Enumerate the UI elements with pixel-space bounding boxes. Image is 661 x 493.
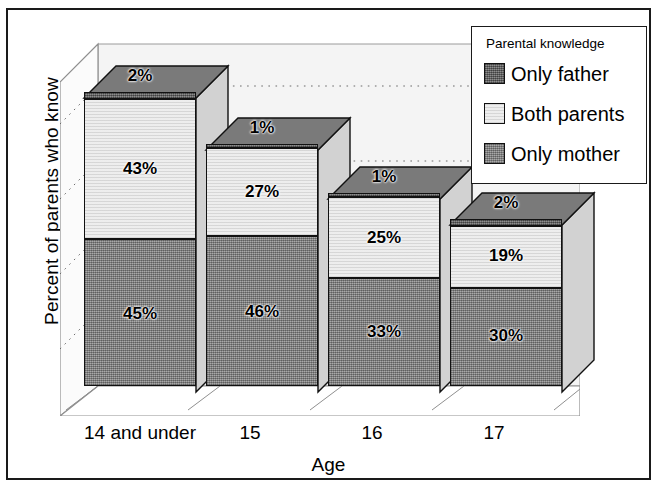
x-tick-label-1: 15 — [194, 422, 306, 444]
legend-label-only-mother: Only mother — [511, 144, 620, 164]
legend-item-both-parents[interactable]: Both parents — [484, 103, 624, 124]
x-tick-label-3: 17 — [438, 422, 550, 444]
bar-column-14-and-under[interactable]: 45% 43% 2% — [84, 92, 196, 386]
x-tick-label-2: 16 — [316, 422, 428, 444]
bar-column-16[interactable]: 33% 25% 1% — [328, 193, 440, 386]
segment-label-only-father: 2% — [84, 66, 196, 86]
segment-label-only-mother: 30% — [450, 326, 562, 346]
legend-label-only-father: Only father — [511, 64, 609, 84]
segment-only-father[interactable] — [328, 193, 440, 197]
segment-only-father[interactable] — [450, 219, 562, 226]
segment-label-both-parents: 27% — [206, 182, 318, 202]
segment-label-only-mother: 33% — [328, 322, 440, 342]
legend-item-only-father[interactable]: Only father — [484, 63, 609, 84]
bar-column-17[interactable]: 30% 19% 2% — [450, 219, 562, 386]
bar-column-15[interactable]: 46% 27% 1% — [206, 144, 318, 386]
legend-swatch-only-father — [484, 63, 505, 84]
segment-only-father[interactable] — [84, 92, 196, 99]
legend-item-only-mother[interactable]: Only mother — [484, 143, 620, 164]
segment-label-both-parents: 19% — [450, 246, 562, 266]
legend-label-both-parents: Both parents — [511, 104, 624, 124]
segment-label-only-mother: 45% — [84, 304, 196, 324]
segment-only-father[interactable] — [206, 144, 318, 148]
legend-swatch-only-mother — [484, 143, 505, 164]
segment-label-only-father: 1% — [328, 167, 440, 187]
segment-label-only-father: 2% — [450, 193, 562, 213]
legend-title: Parental knowledge — [486, 36, 605, 51]
segment-label-both-parents: 43% — [84, 159, 196, 179]
figure-frame: Percent of parents who know — [6, 8, 651, 480]
segment-label-only-mother: 46% — [206, 302, 318, 322]
legend-box: Parental knowledge Only father Both pare… — [471, 26, 647, 184]
x-axis-title: Age — [8, 454, 649, 476]
segment-label-only-father: 1% — [206, 118, 318, 138]
segment-label-both-parents: 25% — [328, 228, 440, 248]
legend-swatch-both-parents — [484, 103, 505, 124]
